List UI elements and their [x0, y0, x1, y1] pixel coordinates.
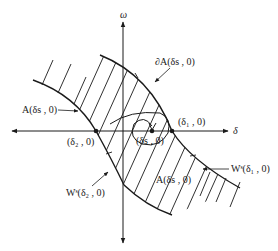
equilibrium-delta1	[170, 129, 175, 134]
equilibrium-deltas	[150, 129, 155, 134]
label-point-delta1: (δ₁ , 0)	[178, 117, 205, 127]
stable-manifold-delta1-curve	[100, 55, 240, 188]
axis-label-delta: δ	[233, 126, 238, 136]
pointer-boundary	[155, 68, 170, 82]
axis-label-omega: ω	[120, 10, 127, 20]
label-point-delta2: (δ₂ , 0)	[67, 137, 94, 147]
stable-manifold-delta2-curve	[33, 80, 124, 185]
lower-boundary-curve	[124, 185, 172, 215]
equilibrium-delta2	[94, 129, 99, 134]
label-region-left: A(δs , 0)	[22, 105, 57, 115]
pointer-region-left	[58, 110, 78, 111]
label-stable-manifold-2: Wˢ(δ₂ , 0)	[66, 188, 105, 198]
label-stable-manifold-1: Wˢ(δ₁ , 0)	[231, 164, 270, 174]
label-region-right: A(δs , 0)	[156, 175, 191, 185]
pointer-ws-delta2	[92, 172, 108, 186]
label-point-deltas: (δs , 0)	[136, 136, 164, 146]
label-boundary: ∂A(δs , 0)	[155, 57, 195, 67]
